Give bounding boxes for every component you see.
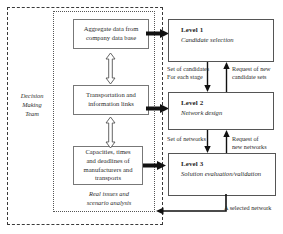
level-1-title: Level 1 <box>181 26 273 34</box>
set-networks-line-1: Set of networks <box>167 135 206 142</box>
edge-label-set-of-candidates: Set of candidates For each stage <box>167 65 229 82</box>
dmt-line-1: Decision <box>21 92 44 99</box>
real-issues-line-1: Real issues and <box>89 190 129 197</box>
aggregate-line-1: Aggregate data from <box>84 25 139 32</box>
edge-label-request-new-networks: Request of new networks <box>232 135 280 152</box>
level-box-1: Level 1 Candidate selection <box>168 19 274 62</box>
double-headed-arrow-icon <box>105 52 116 85</box>
data-box-aggregate-text: Aggregate data from company data base <box>84 25 139 43</box>
selected-network-line-1: A selected network <box>224 204 271 211</box>
level-3-title: Level 3 <box>181 160 275 168</box>
request-networks-line-2: new networks <box>232 143 267 150</box>
set-candidates-line-1: Set of candidates <box>167 65 209 72</box>
request-candidates-line-2: candidate sets <box>232 73 267 80</box>
real-issues-label: Real issues and scenario analysis <box>73 190 145 208</box>
transport-line-1: Transportation and <box>86 91 136 98</box>
level-box-3: Level 3 Solution evaluation/validation <box>168 153 276 196</box>
level-1-subtitle: Candidate selection <box>181 36 273 43</box>
edge-label-selected-network: A selected network <box>224 204 282 212</box>
double-headed-arrow-icon <box>105 116 116 149</box>
dmt-line-3: Team <box>25 110 39 117</box>
level-2-subtitle: Network design <box>181 109 273 116</box>
feed-arrow-icon-level2 <box>146 104 169 113</box>
diagram-canvas: Decision Making Team Aggregate data from… <box>0 0 283 234</box>
edge-label-request-candidate-sets: Request of new candidate sets <box>232 65 280 82</box>
capacity-line-3: manufacturers and <box>84 166 133 173</box>
level-2-title: Level 2 <box>181 99 273 107</box>
feed-arrow-icon-level3 <box>143 161 166 170</box>
data-box-transportation-text: Transportation and information links <box>86 91 136 109</box>
data-box-transportation: Transportation and information links <box>73 85 149 115</box>
request-networks-line-1: Request of <box>232 135 259 142</box>
capacity-line-4: transports <box>95 174 121 181</box>
feedback-arrow-selected-network <box>155 194 231 220</box>
transport-line-2: information links <box>88 100 134 107</box>
data-box-capacities: Capacities, times and deadlines of manuf… <box>73 146 143 185</box>
dmt-line-2: Making <box>22 101 42 108</box>
capacity-line-2: and deadlines of <box>86 157 129 164</box>
edge-label-set-of-networks: Set of networks <box>167 135 227 143</box>
request-candidates-line-1: Request of new <box>232 65 271 72</box>
aggregate-line-2: company data base <box>86 34 136 41</box>
feed-arrow-icon-level1 <box>146 29 169 38</box>
level-3-subtitle: Solution evaluation/validation <box>181 170 275 177</box>
data-box-aggregate: Aggregate data from company data base <box>73 19 149 49</box>
set-candidates-line-2: For each stage <box>167 73 203 80</box>
real-issues-line-2: scenario analysis <box>87 199 132 206</box>
data-box-capacities-text: Capacities, times and deadlines of manuf… <box>84 148 133 184</box>
level-box-2: Level 2 Network design <box>168 92 274 130</box>
decision-making-team-label: Decision Making Team <box>12 92 52 119</box>
